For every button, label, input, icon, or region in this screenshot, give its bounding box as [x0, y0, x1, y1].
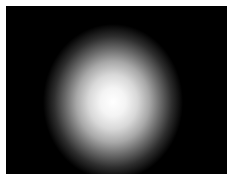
image-frame — [6, 6, 227, 174]
light-spot — [6, 6, 227, 174]
